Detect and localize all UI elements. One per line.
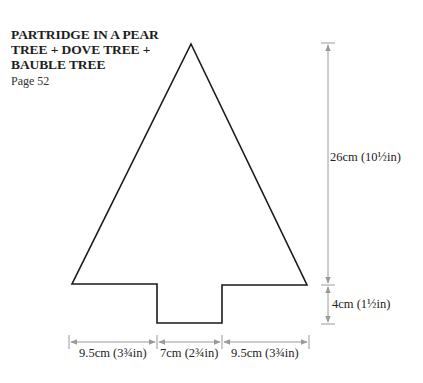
label-trunk-width: 7cm (2¾in) [160,346,218,361]
tree-template-diagram [0,0,423,383]
tree-outline [72,44,307,323]
label-left-width: 9.5cm (3¾in) [79,346,147,361]
label-right-width: 9.5cm (3¾in) [231,346,299,361]
label-tree-height: 26cm (10½in) [330,150,401,165]
label-trunk-height: 4cm (1½in) [332,297,390,312]
